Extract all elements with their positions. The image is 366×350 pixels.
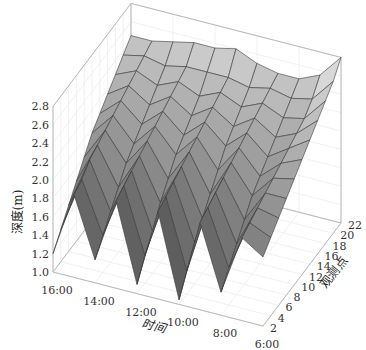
svg-text:2: 2 (270, 322, 277, 335)
svg-text:6: 6 (286, 301, 293, 314)
svg-text:8: 8 (293, 291, 300, 304)
obs-axis-ticks: 246810121416182022 (270, 219, 362, 335)
svg-text:1.2: 1.2 (32, 248, 50, 261)
svg-text:2.4: 2.4 (32, 137, 50, 150)
svg-text:2.2: 2.2 (32, 156, 50, 169)
svg-text:2.0: 2.0 (32, 174, 50, 187)
svg-text:14:00: 14:00 (83, 295, 115, 308)
svg-text:22: 22 (348, 219, 362, 232)
svg-text:6:00: 6:00 (255, 338, 280, 350)
svg-text:10:00: 10:00 (167, 316, 199, 329)
svg-text:1.6: 1.6 (32, 211, 50, 224)
time-axis-title: 时间 (141, 316, 170, 336)
svg-text:1.4: 1.4 (32, 229, 50, 242)
svg-text:1.8: 1.8 (32, 192, 50, 205)
surface-chart: 1.01.21.41.61.82.02.22.42.62.8 16:0014:0… (0, 0, 366, 350)
svg-text:1.0: 1.0 (32, 266, 50, 279)
z-axis-ticks: 1.01.21.41.61.82.02.22.42.62.8 (32, 100, 50, 279)
svg-text:16:00: 16:00 (41, 284, 73, 297)
svg-text:4: 4 (278, 312, 285, 325)
svg-text:12:00: 12:00 (125, 306, 157, 319)
time-axis-ticks: 16:0014:0012:0010:008:006:00 (41, 284, 279, 350)
svg-text:2.8: 2.8 (32, 100, 50, 113)
z-axis-title: 深度(m) (10, 190, 25, 235)
svg-text:2.6: 2.6 (32, 119, 50, 132)
svg-text:8:00: 8:00 (213, 327, 238, 340)
